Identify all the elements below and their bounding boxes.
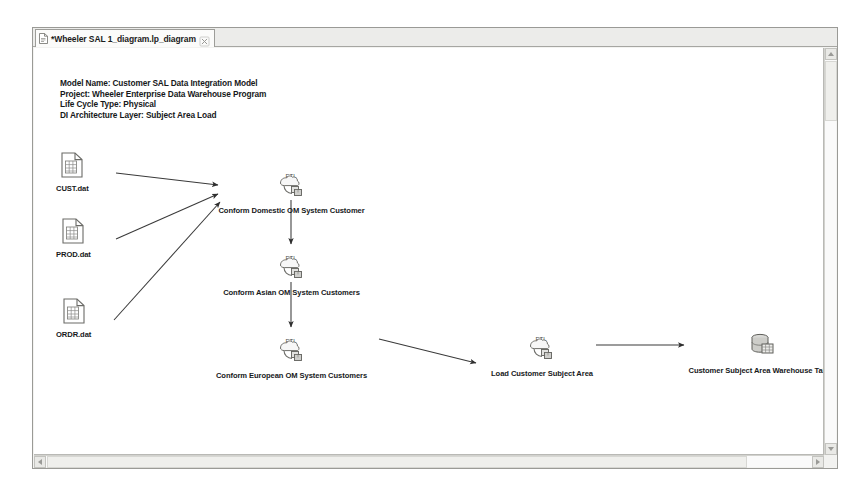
data-file-icon bbox=[63, 298, 85, 328]
vertical-scrollbar-thumb[interactable] bbox=[825, 61, 837, 121]
scroll-down-button[interactable] bbox=[825, 443, 837, 455]
diagram-node-ordr-dat[interactable]: ORDR.dat bbox=[56, 298, 91, 339]
di-architecture-layer-line: DI Architecture Layer: Subject Area Load bbox=[60, 110, 266, 121]
diagram-node-label: Customer Subject Area Warehouse Tables bbox=[688, 366, 824, 375]
diagram-node-label: Conform European OM System Customers bbox=[216, 371, 367, 380]
diagram-canvas-content: Model Name: Customer SAL Data Integratio… bbox=[34, 48, 824, 455]
etl-process-icon: ETL bbox=[277, 170, 307, 204]
edge-cust-to-domestic bbox=[116, 173, 218, 185]
diagram-node-label: Conform Asian OM System Customers bbox=[223, 288, 360, 297]
scroll-left-arrow-icon bbox=[38, 459, 42, 465]
data-file-icon bbox=[61, 152, 83, 182]
etl-process-icon: ETL bbox=[277, 252, 307, 286]
project-line: Project: Wheeler Enterprise Data Warehou… bbox=[60, 89, 266, 100]
diagram-editor-window: *Wheeler SAL 1_diagram.lp_diagram Model … bbox=[32, 27, 838, 469]
diagram-node-label: CUST.dat bbox=[56, 184, 89, 193]
horizontal-scrollbar-thumb[interactable] bbox=[47, 456, 747, 468]
editor-tab-strip: *Wheeler SAL 1_diagram.lp_diagram bbox=[33, 28, 837, 47]
data-file-icon bbox=[62, 218, 84, 248]
etl-process-icon: ETL bbox=[277, 335, 307, 369]
scroll-right-arrow-icon bbox=[816, 459, 820, 465]
diagram-node-label: PROD.dat bbox=[56, 250, 91, 259]
edge-european-to-load bbox=[379, 339, 476, 363]
diagram-node-label: ORDR.dat bbox=[56, 330, 91, 339]
diagram-node-conform-european[interactable]: ETL Conform European OM System Customers bbox=[204, 335, 379, 380]
model-name-line: Model Name: Customer SAL Data Integratio… bbox=[60, 78, 266, 89]
scroll-right-button[interactable] bbox=[812, 456, 824, 468]
database-icon bbox=[748, 330, 778, 364]
document-icon bbox=[39, 33, 48, 44]
diagram-node-label: Conform Domestic OM System Customer bbox=[218, 206, 364, 215]
scroll-up-arrow-icon bbox=[828, 52, 834, 56]
scroll-up-button[interactable] bbox=[825, 48, 837, 60]
diagram-node-customer-warehouse-tables[interactable]: Customer Subject Area Warehouse Tables bbox=[668, 330, 824, 375]
scrollbar-corner bbox=[824, 455, 836, 467]
scroll-left-button[interactable] bbox=[34, 456, 46, 468]
life-cycle-type-line: Life Cycle Type: Physical bbox=[60, 99, 266, 110]
diagram-node-conform-domestic[interactable]: ETL Conform Domestic OM System Customer bbox=[204, 170, 379, 215]
diagram-node-conform-asian[interactable]: ETL Conform Asian OM System Customers bbox=[204, 252, 379, 297]
close-icon[interactable] bbox=[199, 33, 210, 44]
diagram-node-cust-dat[interactable]: CUST.dat bbox=[56, 152, 89, 193]
diagram-node-label: Load Customer Subject Area bbox=[491, 369, 593, 378]
etl-process-icon: ETL bbox=[527, 333, 557, 367]
model-header-block: Model Name: Customer SAL Data Integratio… bbox=[60, 78, 266, 120]
edge-prod-to-domestic bbox=[116, 194, 218, 239]
diagram-canvas[interactable]: Model Name: Customer SAL Data Integratio… bbox=[34, 48, 824, 455]
editor-tab-label: *Wheeler SAL 1_diagram.lp_diagram bbox=[51, 34, 196, 44]
scroll-down-arrow-icon bbox=[828, 447, 834, 451]
diagram-node-prod-dat[interactable]: PROD.dat bbox=[56, 218, 91, 259]
editor-tab-wheeler-sal-diagram[interactable]: *Wheeler SAL 1_diagram.lp_diagram bbox=[35, 29, 215, 47]
diagram-node-load-customer-subject-area[interactable]: ETL Load Customer Subject Area bbox=[477, 333, 607, 378]
horizontal-scrollbar[interactable] bbox=[34, 455, 824, 467]
vertical-scrollbar[interactable] bbox=[824, 48, 836, 455]
